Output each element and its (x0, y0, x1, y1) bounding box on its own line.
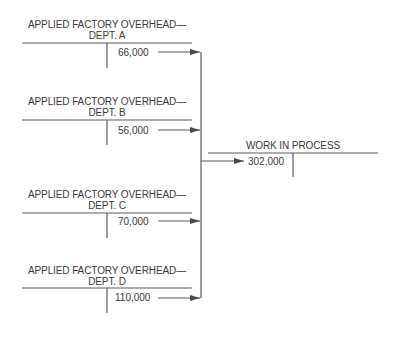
title-line2: DEPT. C (22, 200, 192, 211)
title-line2: DEPT. D (22, 276, 192, 287)
account-title-dept-d: APPLIED FACTORY OVERHEAD— DEPT. D (22, 265, 192, 287)
credit-dept-c: 70,000 (118, 216, 149, 227)
wip-debit: 302,000 (248, 156, 284, 167)
account-title-dept-c: APPLIED FACTORY OVERHEAD— DEPT. C (22, 189, 192, 211)
title-line2: DEPT. B (22, 107, 192, 118)
credit-dept-a: 66,000 (118, 47, 149, 58)
account-title-dept-b: APPLIED FACTORY OVERHEAD— DEPT. B (22, 96, 192, 118)
account-title-dept-a: APPLIED FACTORY OVERHEAD— DEPT. A (22, 19, 192, 41)
credit-dept-b: 56,000 (118, 125, 149, 136)
credit-dept-d: 110,000 (115, 292, 150, 303)
wip-title: WORK IN PROCESS (208, 140, 378, 151)
title-line1: APPLIED FACTORY OVERHEAD— (22, 19, 192, 30)
title-line1: APPLIED FACTORY OVERHEAD— (22, 265, 192, 276)
title-line2: DEPT. A (22, 30, 192, 41)
title-line1: APPLIED FACTORY OVERHEAD— (22, 96, 192, 107)
title-line1: APPLIED FACTORY OVERHEAD— (22, 189, 192, 200)
